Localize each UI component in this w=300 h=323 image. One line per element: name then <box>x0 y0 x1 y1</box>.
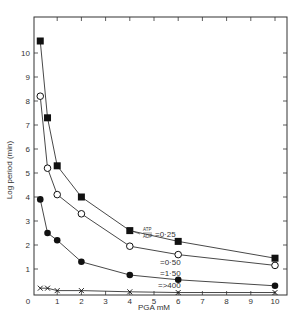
series-group <box>37 38 279 296</box>
line-chart: 01234567891012345678910 Log period (min)… <box>0 0 300 323</box>
data-point-open-circle <box>175 251 182 258</box>
x-tick-label: 6 <box>176 297 181 306</box>
y-tick-label: 3 <box>26 217 31 226</box>
data-point-filled-circle <box>127 272 134 279</box>
x-axis-label: PGA mM <box>138 303 170 312</box>
x-tick-label: 9 <box>249 297 254 306</box>
x-tick-label: 10 <box>271 297 280 306</box>
data-point-open-circle <box>127 243 134 250</box>
data-point-square <box>272 255 279 262</box>
x-tick-label: 7 <box>200 297 205 306</box>
data-point-open-circle <box>54 191 61 198</box>
y-tick-label: 5 <box>26 169 31 178</box>
data-point-filled-circle <box>272 283 279 290</box>
data-point-square <box>78 194 85 201</box>
ratio-numerator: ATP <box>143 227 151 232</box>
data-point-filled-circle <box>37 196 44 203</box>
legend-label-025: =0·25 <box>155 230 176 239</box>
series-line <box>40 41 275 258</box>
x-tick-label: 0 <box>26 297 31 306</box>
ratio-denominator: ADP <box>143 234 152 239</box>
legend-label-150: =1·50 <box>160 269 181 278</box>
y-tick-label: 1 <box>26 265 31 274</box>
data-point-square <box>37 38 44 45</box>
x-tick-label: 4 <box>128 297 133 306</box>
y-tick-label: 2 <box>26 241 31 250</box>
legend-annotations: ATP ADP =0·25 =0·50 =1·50 =>400 <box>132 227 181 290</box>
data-point-open-circle <box>44 165 51 172</box>
x-tick-label: 2 <box>79 297 84 306</box>
series-line <box>40 96 275 265</box>
data-point-open-circle <box>272 262 279 269</box>
series-line <box>40 199 275 285</box>
y-tick-label: 7 <box>26 121 31 130</box>
y-tick-label: 10 <box>21 49 30 58</box>
x-tick-label: 1 <box>55 297 60 306</box>
data-point-square <box>54 162 61 169</box>
data-point-square <box>175 238 182 245</box>
data-point-square <box>44 114 51 121</box>
legend-label-400: =>400 <box>158 281 181 290</box>
data-point-filled-circle <box>54 237 61 244</box>
y-tick-label: 4 <box>26 193 31 202</box>
x-tick-label: 3 <box>103 297 108 306</box>
data-point-square <box>126 227 133 234</box>
x-tick-label: 8 <box>224 297 229 306</box>
y-tick-label: 8 <box>26 97 31 106</box>
y-tick-label: 9 <box>26 73 31 82</box>
data-point-filled-circle <box>44 230 51 237</box>
data-point-filled-circle <box>78 259 85 266</box>
data-point-open-circle <box>78 211 85 218</box>
data-point-open-circle <box>37 93 44 100</box>
y-tick-label: 6 <box>26 145 31 154</box>
y-axis-label: Log period (min) <box>5 141 14 200</box>
legend-label-050: =0·50 <box>160 258 181 267</box>
